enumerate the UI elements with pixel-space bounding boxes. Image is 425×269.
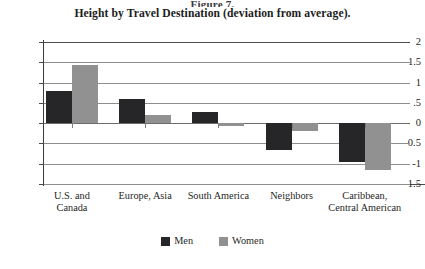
- figure-header: Figure 7. Height by Travel Destination (…: [0, 0, 425, 21]
- category-tick: [218, 123, 219, 128]
- category-label: Caribbean, Central American: [320, 190, 410, 215]
- gridline: [44, 164, 410, 165]
- gridline: [44, 103, 410, 104]
- bar-women: [145, 115, 171, 123]
- figure-number: Figure 7.: [0, 0, 425, 7]
- bar-women: [365, 123, 391, 170]
- bar-women: [72, 65, 98, 123]
- gridline: [44, 62, 410, 63]
- legend-entry-men: Men: [161, 236, 193, 246]
- figure-title: Height by Travel Destination (deviation …: [0, 7, 425, 21]
- legend-swatch-women-icon: [219, 237, 228, 246]
- legend-label-women: Women: [232, 236, 264, 246]
- legend-entry-women: Women: [219, 236, 264, 246]
- bar-men: [46, 91, 72, 123]
- plot-area: [44, 42, 410, 184]
- bar-chart: 21.51.50-0.5-1-1.5 U.S. and CanadaEurope…: [0, 30, 425, 269]
- gridline: [44, 42, 410, 43]
- category-tick: [365, 123, 366, 128]
- chart-legend: Men Women: [0, 236, 425, 246]
- gridline: [44, 83, 410, 84]
- category-tick: [292, 123, 293, 128]
- category-tick: [72, 123, 73, 128]
- bar-women: [218, 123, 244, 126]
- bar-men: [192, 112, 218, 123]
- gridline: [44, 184, 410, 185]
- category-tick: [145, 123, 146, 128]
- legend-label-men: Men: [174, 236, 193, 246]
- bar-men: [339, 123, 365, 162]
- legend-swatch-men-icon: [161, 237, 170, 246]
- bar-men: [119, 99, 145, 123]
- bar-men: [266, 123, 292, 149]
- bar-women: [292, 123, 318, 131]
